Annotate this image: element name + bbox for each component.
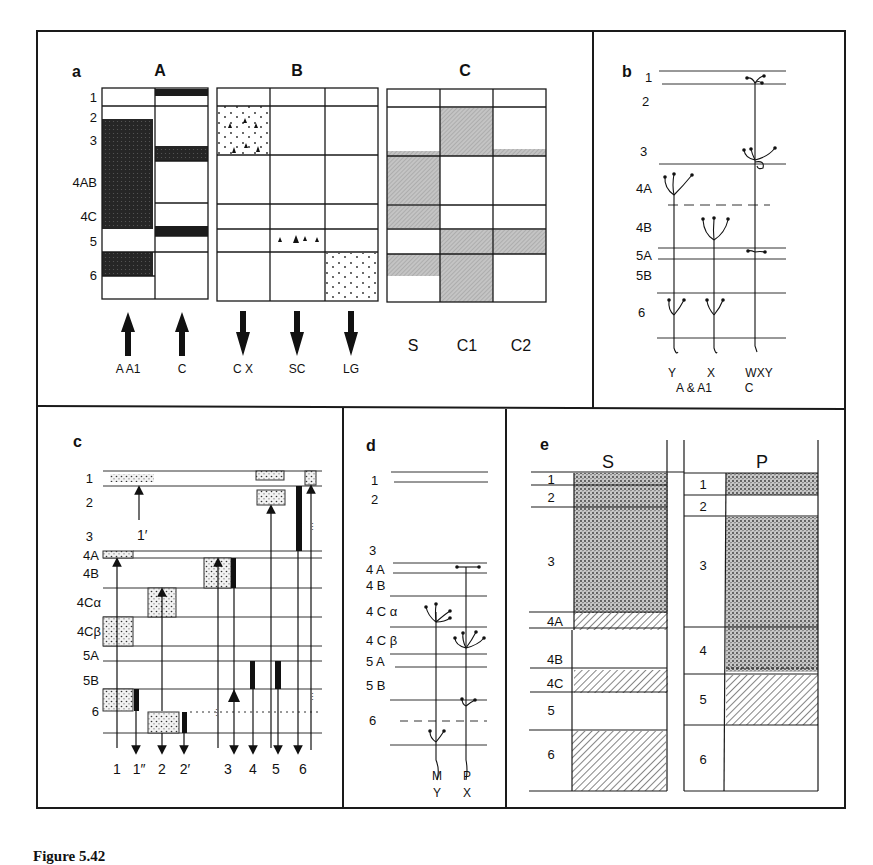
column-label: 5 xyxy=(272,761,280,777)
group-a-grid xyxy=(102,88,208,299)
layer-label: 4 B xyxy=(366,578,386,593)
figure-caption: Figure 5.42 xyxy=(33,848,105,865)
layer-label: 6 xyxy=(90,268,97,283)
layer-label: 2 xyxy=(90,110,97,125)
arrow-label: LG xyxy=(343,362,359,376)
layer-label: 6 xyxy=(699,752,706,767)
layer-label: 2 xyxy=(642,94,649,109)
layer-label: 5 B xyxy=(366,678,386,693)
column-label: 1 xyxy=(113,761,121,777)
group-c-grid xyxy=(387,89,546,302)
panel-b-letter: b xyxy=(622,63,632,80)
column-label: 1″ xyxy=(133,761,146,777)
layer-label: 1 xyxy=(645,70,652,85)
down-arrow-icon xyxy=(236,311,250,356)
layer-label: 4B xyxy=(547,652,563,667)
panel-a-c-labels: S C1 C2 xyxy=(408,337,532,354)
layer-label: 4B xyxy=(636,220,652,235)
up-arrow-icon xyxy=(175,312,189,356)
lineage-label: Y xyxy=(433,786,441,800)
lineage-label: M xyxy=(432,769,442,783)
layer-label: 4 C α xyxy=(366,604,398,619)
layer-label: 5A xyxy=(83,648,99,663)
up-arrow-icon xyxy=(228,689,240,702)
panel-b-bottom-labels: Y X WXY A & A1 C xyxy=(668,366,773,395)
section-s-layer-labels: 1 2 3 4A 4B 4C 5 6 xyxy=(547,472,564,762)
layer-label: 5B xyxy=(83,673,99,688)
panel-c: c 1 2 3 4A 4B 4Cα 4Cβ 5A 5B 6 xyxy=(73,433,322,777)
panel-b: b 1 2 3 4A 4B 5A 5B 6 xyxy=(622,63,786,395)
panel-d-bottom-labels: M P Y X xyxy=(432,769,471,800)
layer-label: 4 A xyxy=(366,562,385,577)
lineage-label: C xyxy=(745,381,754,395)
panel-d: d 1 2 3 4 A 4 B 4 C α 4 C β 5 A 5 B 6 xyxy=(366,437,488,800)
panel-c-layer-labels: 1 2 3 4A 4B 4Cα 4Cβ 5A 5B 6 xyxy=(77,471,102,719)
lineage-label: Y xyxy=(668,366,676,380)
section-p-layer-labels: 1 2 3 4 5 6 xyxy=(699,477,706,767)
section-s-title: S xyxy=(602,452,614,472)
layer-label: 2 xyxy=(699,499,706,514)
layer-label: 1 xyxy=(699,477,706,492)
panel-e: e S P xyxy=(529,436,818,791)
panel-a-layer-labels: 1 2 3 4AB 4C 5 6 xyxy=(72,90,97,283)
layer-label: 4Cα xyxy=(77,595,102,610)
marker-label: 1′ xyxy=(137,527,148,543)
svg-text:⋮: ⋮ xyxy=(308,692,317,702)
lineage-label: X xyxy=(707,366,715,380)
down-arrow-icon xyxy=(344,311,358,356)
layer-label: 1 xyxy=(371,473,378,488)
column-label: 4 xyxy=(249,761,257,777)
panel-e-letter: e xyxy=(540,436,549,453)
panel-b-layer-labels: 1 2 3 4A 4B 5A 5B 6 xyxy=(636,70,652,320)
layer-label: 1 xyxy=(90,90,97,105)
column-label: 6 xyxy=(299,761,307,777)
layer-label: 5 A xyxy=(366,654,385,669)
layer-label: 6 xyxy=(369,713,376,728)
lineage-label: P xyxy=(463,769,471,783)
layer-label: 4A xyxy=(547,614,563,629)
lineage-trees xyxy=(665,76,775,353)
layer-label: 4Cβ xyxy=(77,624,101,639)
section-p-title: P xyxy=(756,452,768,472)
column-label: S xyxy=(408,337,419,354)
layer-label: 4 C β xyxy=(366,633,397,648)
layer-label: 5A xyxy=(636,248,652,263)
layer-label: 6 xyxy=(92,704,99,719)
group-c-title: C xyxy=(459,62,471,79)
layer-label: 5 xyxy=(90,234,97,249)
layer-label: 2 xyxy=(547,490,554,505)
layer-label: 4B xyxy=(83,566,99,581)
group-a-title: A xyxy=(154,62,166,79)
layer-label: 5 xyxy=(547,703,554,718)
layer-label: 5 xyxy=(699,692,706,707)
column-label: C1 xyxy=(457,337,478,354)
layer-label: 3 xyxy=(699,558,706,573)
layer-label: 2 xyxy=(371,492,378,507)
up-arrow-icon xyxy=(121,312,135,356)
panel-d-layer-labels: 1 2 3 4 A 4 B 4 C α 4 C β 5 A 5 B 6 xyxy=(366,473,398,728)
layer-label: 3 xyxy=(90,133,97,148)
layer-label: 4AB xyxy=(72,175,97,190)
layer-label: 3 xyxy=(640,144,647,159)
column-label: 3 xyxy=(224,761,232,777)
layer-label: 6 xyxy=(638,305,645,320)
layer-label: 5B xyxy=(636,268,652,283)
lineage-label: A & A1 xyxy=(676,381,712,395)
svg-text:⋮: ⋮ xyxy=(212,708,221,718)
layer-label: 6 xyxy=(547,747,554,762)
panel-c-column-labels: 1 1″ 2 2′ 3 4 5 6 xyxy=(113,761,307,777)
group-b-grid xyxy=(217,88,378,301)
down-arrow-icon xyxy=(290,311,304,356)
layer-label: 3 xyxy=(547,554,554,569)
arrow-label: C xyxy=(178,362,187,376)
panel-c-letter: c xyxy=(73,433,82,450)
layer-label: 1 xyxy=(547,472,554,487)
column-label: 2′ xyxy=(180,761,191,777)
panel-a: a A B C 1 2 3 4AB 4C 5 6 xyxy=(72,62,546,376)
layer-label: 2 xyxy=(86,495,93,510)
panel-a-arrow-labels: A A1 C C X SC LG xyxy=(116,362,359,376)
lineage-label: WXY xyxy=(745,366,772,380)
svg-text:⋮: ⋮ xyxy=(308,522,317,532)
panel-d-letter: d xyxy=(366,437,376,454)
